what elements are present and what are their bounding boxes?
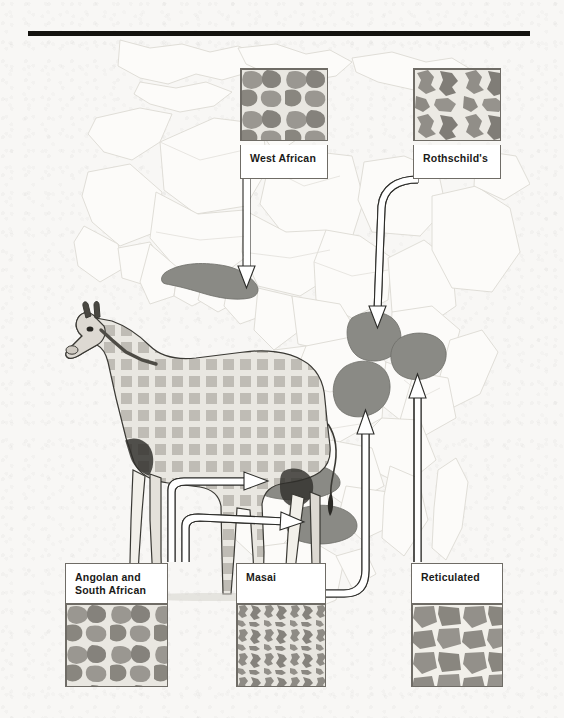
label-angolan-south-african: Angolan and South African [75, 571, 146, 596]
label-masai: Masai [246, 571, 276, 584]
connector-rothschilds [369, 176, 418, 328]
label-reticulated: Reticulated [421, 571, 480, 584]
swatch-rothschilds [413, 68, 501, 141]
connector-reticulated [409, 374, 426, 562]
swatch-west-african [240, 68, 328, 141]
card-reticulated[interactable]: Reticulated [411, 563, 503, 691]
connector-south-african [182, 512, 304, 562]
card-rothschilds[interactable]: Rothschild's [413, 68, 501, 179]
infographic-canvas: West African Rothschild's Angolan and So… [0, 0, 564, 718]
label-box-masai: Masai [236, 563, 326, 603]
swatch-angolan-south-african [65, 603, 168, 687]
swatch-masai [236, 603, 326, 687]
card-angolan-south-african[interactable]: Angolan and South African [65, 563, 168, 691]
card-masai[interactable]: Masai [236, 563, 326, 691]
card-west-african[interactable]: West African [240, 68, 328, 179]
connector-west-african [238, 175, 255, 288]
swatch-reticulated [411, 603, 503, 687]
label-west-african: West African [250, 152, 316, 165]
label-box-west-african: West African [240, 145, 328, 179]
label-box-angolan-south-african: Angolan and South African [65, 563, 168, 603]
label-rothschilds: Rothschild's [423, 152, 488, 165]
label-box-reticulated: Reticulated [411, 563, 503, 603]
label-box-rothschilds: Rothschild's [413, 145, 501, 179]
connector-masai [326, 410, 374, 597]
